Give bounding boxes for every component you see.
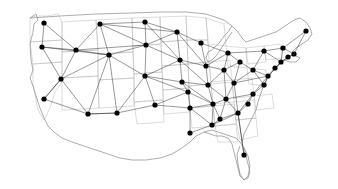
network-node[interactable] — [237, 59, 242, 64]
network-node[interactable] — [41, 96, 46, 101]
network-edge — [190, 108, 212, 125]
network-node[interactable] — [143, 42, 148, 47]
network-node[interactable] — [152, 102, 157, 107]
network-edge — [146, 45, 180, 60]
network-edge — [190, 125, 212, 133]
map-nation-outline — [30, 12, 312, 180]
network-edge — [180, 60, 206, 66]
network-edge — [155, 92, 188, 105]
network-node[interactable] — [303, 28, 308, 33]
network-node[interactable] — [174, 29, 179, 34]
network-edges — [42, 22, 306, 155]
us-network-graph — [0, 0, 338, 189]
network-edge — [100, 24, 146, 45]
network-node[interactable] — [217, 116, 222, 121]
network-node[interactable] — [106, 52, 111, 57]
network-edge — [220, 99, 226, 119]
network-edge — [177, 32, 180, 60]
network-edge — [88, 113, 117, 114]
network-edge — [44, 23, 76, 50]
network-edge — [264, 48, 283, 51]
network-edge — [109, 55, 145, 76]
network-node[interactable] — [272, 65, 277, 70]
network-edge — [177, 32, 201, 43]
network-node[interactable] — [114, 110, 119, 115]
network-edge — [234, 62, 240, 83]
network-node[interactable] — [85, 111, 90, 116]
network-map-figure — [0, 0, 338, 189]
network-edge — [145, 45, 146, 76]
network-node[interactable] — [241, 152, 246, 157]
network-node[interactable] — [235, 110, 240, 115]
network-edge — [188, 92, 213, 104]
network-node[interactable] — [39, 44, 44, 49]
network-node[interactable] — [58, 76, 63, 81]
network-node[interactable] — [73, 47, 78, 52]
network-node[interactable] — [225, 50, 230, 55]
network-edge — [145, 76, 182, 82]
network-node[interactable] — [221, 67, 226, 72]
network-node[interactable] — [245, 101, 250, 106]
network-node[interactable] — [205, 82, 210, 87]
network-node[interactable] — [187, 130, 192, 135]
network-edge — [212, 104, 213, 125]
network-node[interactable] — [291, 51, 296, 56]
network-edge — [180, 60, 182, 82]
network-edge — [208, 85, 226, 99]
network-node[interactable] — [250, 67, 255, 72]
network-node[interactable] — [250, 91, 255, 96]
network-edge — [155, 105, 190, 108]
network-node[interactable] — [209, 122, 214, 127]
network-node[interactable] — [198, 40, 203, 45]
network-node[interactable] — [265, 73, 270, 78]
network-node[interactable] — [280, 45, 285, 50]
network-edge — [44, 79, 61, 99]
network-edge — [61, 79, 88, 114]
network-edge — [206, 66, 208, 85]
network-edge — [76, 45, 146, 50]
network-node[interactable] — [177, 57, 182, 62]
network-edge — [109, 55, 117, 113]
network-edge — [76, 24, 100, 50]
network-node[interactable] — [285, 54, 290, 59]
network-node[interactable] — [187, 105, 192, 110]
network-edge — [212, 113, 238, 125]
network-edge — [253, 51, 264, 70]
network-edge — [42, 23, 44, 47]
network-node[interactable] — [278, 59, 283, 64]
network-edge — [100, 24, 109, 55]
network-node[interactable] — [185, 89, 190, 94]
network-node[interactable] — [41, 20, 46, 25]
network-node[interactable] — [179, 79, 184, 84]
network-edge — [61, 50, 76, 79]
network-edge — [224, 62, 240, 70]
network-node[interactable] — [97, 21, 102, 26]
network-node[interactable] — [203, 63, 208, 68]
network-edge — [206, 66, 224, 70]
network-edge — [100, 22, 145, 24]
network-edge — [117, 76, 145, 113]
network-edge — [100, 24, 177, 32]
network-node[interactable] — [231, 80, 236, 85]
network-node[interactable] — [210, 101, 215, 106]
network-edge — [146, 32, 177, 45]
network-edge — [117, 105, 155, 113]
network-edge — [264, 51, 281, 62]
network-node[interactable] — [142, 73, 147, 78]
network-edge — [224, 70, 226, 99]
network-edge — [190, 104, 213, 108]
network-node[interactable] — [142, 19, 147, 24]
network-nodes — [39, 19, 308, 157]
network-node[interactable] — [261, 48, 266, 53]
network-node[interactable] — [223, 96, 228, 101]
network-edge — [145, 22, 146, 45]
network-node[interactable] — [261, 82, 266, 87]
network-edge — [283, 31, 306, 48]
network-edge — [76, 50, 109, 55]
